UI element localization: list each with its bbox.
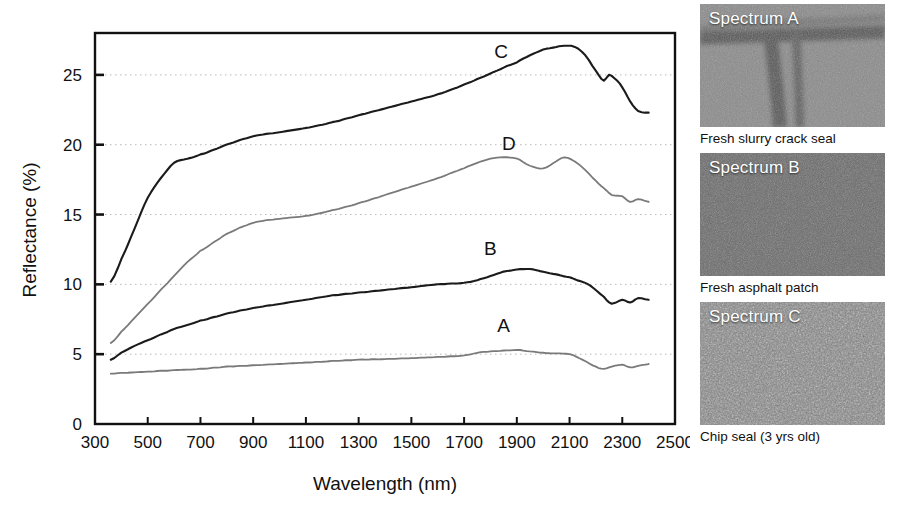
x-tick-1700: 1700 xyxy=(445,433,483,452)
curve-b xyxy=(111,269,649,360)
photo-caption-a: Fresh slurry crack seal xyxy=(700,127,885,149)
curve-label-a: A xyxy=(497,315,510,336)
x-axis-title: Wavelength (nm) xyxy=(313,473,457,494)
figure-root: 3005007009001100130015001700190021002300… xyxy=(0,0,905,512)
y-tick-25: 25 xyxy=(63,66,82,85)
x-tick-2100: 2100 xyxy=(551,433,589,452)
x-tick-1500: 1500 xyxy=(392,433,430,452)
reflectance-line-chart: 3005007009001100130015001700190021002300… xyxy=(0,0,690,512)
curve-label-b: B xyxy=(484,238,497,259)
y-tick-0: 0 xyxy=(73,415,82,434)
photo-image-c: Spectrum C xyxy=(700,302,885,425)
y-tick-15: 15 xyxy=(63,206,82,225)
photo-block-c: Spectrum C Chip seal (3 yrs old) xyxy=(700,302,885,447)
x-tick-1900: 1900 xyxy=(498,433,536,452)
x-tick-1100: 1100 xyxy=(288,433,325,452)
y-tick-5: 5 xyxy=(73,345,82,364)
curve-d xyxy=(111,157,649,343)
x-tick-2500: 2500 xyxy=(656,433,690,452)
axis-ticks xyxy=(95,75,622,424)
x-tick-2300: 2300 xyxy=(603,433,641,452)
y-tick-20: 20 xyxy=(63,136,82,155)
x-tick-300: 300 xyxy=(81,433,109,452)
x-tick-900: 900 xyxy=(239,433,267,452)
y-axis-title: Reflectance (%) xyxy=(19,162,40,297)
curve-a xyxy=(111,350,649,374)
photo-tag-c: Spectrum C xyxy=(709,307,801,327)
curve-label-c: C xyxy=(494,41,508,62)
curve-labels: ABCD xyxy=(484,41,516,336)
x-tick-700: 700 xyxy=(186,433,214,452)
y-tick-10: 10 xyxy=(63,275,82,294)
photo-block-b: Spectrum B Fresh asphalt patch xyxy=(700,153,885,298)
curve-c xyxy=(111,46,649,282)
photo-caption-b: Fresh asphalt patch xyxy=(700,276,885,298)
photo-block-a: Spectrum A Fresh slurry crack seal xyxy=(700,4,885,149)
axis-tick-labels: 3005007009001100130015001700190021002300… xyxy=(63,66,690,452)
spectra-chart-panel: 3005007009001100130015001700190021002300… xyxy=(0,0,690,512)
photo-image-a: Spectrum A xyxy=(700,4,885,127)
photo-tag-b: Spectrum B xyxy=(709,158,800,178)
plot-frame xyxy=(95,33,675,424)
x-tick-1300: 1300 xyxy=(340,433,378,452)
photo-image-b: Spectrum B xyxy=(700,153,885,276)
sample-photos-panel: Spectrum A Fresh slurry crack seal xyxy=(700,4,900,512)
spectra-curves xyxy=(111,46,649,374)
x-tick-500: 500 xyxy=(134,433,162,452)
photo-caption-c: Chip seal (3 yrs old) xyxy=(700,425,885,447)
gridlines xyxy=(95,75,675,354)
curve-label-d: D xyxy=(502,133,516,154)
photo-tag-a: Spectrum A xyxy=(709,9,799,29)
